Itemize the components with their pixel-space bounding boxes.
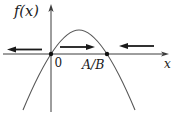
flow-arrow-middle bbox=[60, 44, 95, 50]
flow-arrow-left bbox=[7, 47, 42, 53]
root-label: A/B bbox=[81, 57, 104, 72]
left-arrowhead-icon bbox=[7, 47, 16, 53]
right-arrowhead-icon bbox=[86, 44, 95, 50]
right-region-arrowhead-icon bbox=[119, 43, 128, 49]
x-axis-label: x bbox=[164, 57, 171, 71]
y-axis-label: f(x) bbox=[13, 3, 39, 19]
x-axis bbox=[3, 51, 169, 56]
y-axis bbox=[48, 4, 53, 112]
origin-label: 0 bbox=[55, 56, 63, 70]
flow-arrow-right bbox=[119, 43, 154, 49]
phase-portrait-figure: f(x) 0 A/B x bbox=[0, 0, 183, 114]
parabola-curve bbox=[23, 30, 135, 110]
root-point bbox=[105, 52, 109, 56]
origin-point bbox=[49, 52, 53, 56]
